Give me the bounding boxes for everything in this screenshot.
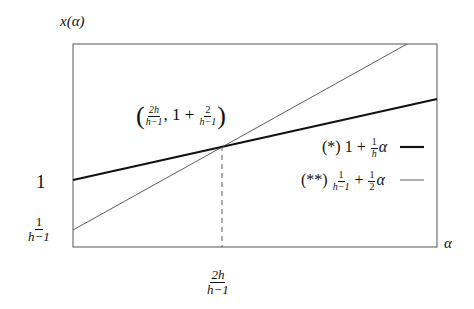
y-tick-1-over-h-1: 1h−1 bbox=[27, 215, 51, 243]
x-tick-2h-over-h-1: 2hh−1 bbox=[206, 268, 230, 296]
x-axis-label: α bbox=[444, 236, 452, 251]
legend-item-1: (*) 1 + 1hα bbox=[322, 137, 387, 159]
y-axis-label: x(α) bbox=[60, 14, 85, 29]
legend-item-2: (**) 1h−1 + 12α bbox=[301, 170, 385, 192]
plot-svg bbox=[0, 0, 474, 309]
intersection-annotation: (2hh−1, 1 + 2h−1) bbox=[136, 103, 226, 129]
y-tick-1: 1 bbox=[36, 172, 46, 191]
